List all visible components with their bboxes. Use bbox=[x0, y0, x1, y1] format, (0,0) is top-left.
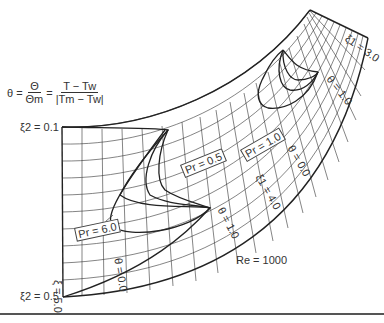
formula-lhs: θ bbox=[7, 87, 13, 99]
label-xi2-top: ξ2 = 0.1 bbox=[20, 121, 59, 133]
frac1-den: Θm bbox=[26, 93, 44, 105]
label-xi-bottom: ξ = 5.0 bbox=[52, 280, 64, 313]
bottom-rule bbox=[0, 313, 384, 315]
fraction-1: Θ Θm bbox=[26, 80, 44, 105]
formula-eq-2: = bbox=[46, 87, 52, 99]
theta-profiles-right bbox=[258, 50, 318, 108]
frac2-num: T − Tw bbox=[61, 80, 98, 93]
frac2-den: |Tm − Tw| bbox=[56, 93, 104, 105]
theta-definition-formula: θ = Θ Θm = T − Tw |Tm − Tw| bbox=[7, 80, 104, 105]
frac1-num: Θ bbox=[28, 80, 41, 93]
fraction-2: T − Tw |Tm − Tw| bbox=[56, 80, 104, 105]
formula-eq: = bbox=[16, 87, 22, 99]
label-reynolds: Re = 1000 bbox=[236, 254, 287, 266]
